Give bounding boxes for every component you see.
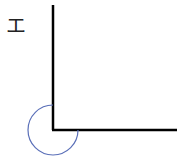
angle-label: エ	[6, 14, 26, 38]
angle-diagram: エ	[0, 0, 187, 167]
